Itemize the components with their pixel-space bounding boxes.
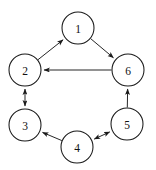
graph-edge-1-6 xyxy=(91,39,114,58)
node-label-4: 4 xyxy=(74,142,80,154)
graph-node-5[interactable]: 5 xyxy=(111,108,143,140)
graph-node-2[interactable]: 2 xyxy=(9,54,41,86)
graph-diagram: 123456 xyxy=(0,0,156,170)
graph-edge-4-3 xyxy=(43,132,62,140)
node-label-6: 6 xyxy=(125,65,131,77)
node-label-3: 3 xyxy=(22,120,28,132)
graph-edge-4-5 xyxy=(94,132,109,139)
node-label-1: 1 xyxy=(75,23,81,35)
node-label-2: 2 xyxy=(22,65,28,77)
node-label-5: 5 xyxy=(124,119,130,131)
graph-node-1[interactable]: 1 xyxy=(62,12,94,44)
graph-node-6[interactable]: 6 xyxy=(112,54,144,86)
nodes-layer: 123456 xyxy=(9,12,144,163)
graph-canvas: 123456 xyxy=(0,0,156,170)
graph-edge-2-1 xyxy=(38,40,63,60)
graph-node-4[interactable]: 4 xyxy=(61,131,93,163)
graph-node-3[interactable]: 3 xyxy=(9,109,41,141)
